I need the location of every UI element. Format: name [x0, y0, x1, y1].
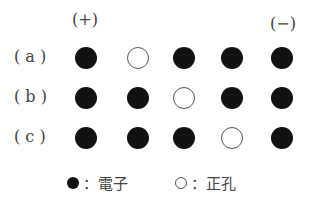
hole-dot: [127, 47, 149, 69]
legend-hole: ：正孔: [175, 172, 236, 193]
positive-pole-label: (+): [72, 10, 98, 29]
hole-dot: [173, 87, 195, 109]
row-label: ( b ): [14, 87, 47, 106]
electron-dot: [271, 47, 293, 69]
hole-icon: [175, 177, 187, 189]
legend-hole-label: ：正孔: [191, 172, 236, 193]
hole-dot: [221, 127, 243, 149]
legend-electron: ：電子: [67, 172, 128, 193]
electron-dot: [221, 47, 243, 69]
electron-dot: [127, 127, 149, 149]
electron-dot: [75, 47, 97, 69]
row-label: ( c ): [14, 127, 46, 146]
negative-pole-label: (−): [270, 14, 296, 33]
legend-electron-label: ：電子: [83, 172, 128, 193]
row-label: ( a ): [14, 47, 46, 66]
electron-dot: [271, 87, 293, 109]
electron-dot: [173, 47, 195, 69]
electron-dot: [127, 87, 149, 109]
electron-dot: [173, 127, 195, 149]
electron-dot: [221, 87, 243, 109]
electron-dot: [271, 127, 293, 149]
electron-dot: [75, 127, 97, 149]
electron-dot: [75, 87, 97, 109]
electron-icon: [67, 177, 79, 189]
